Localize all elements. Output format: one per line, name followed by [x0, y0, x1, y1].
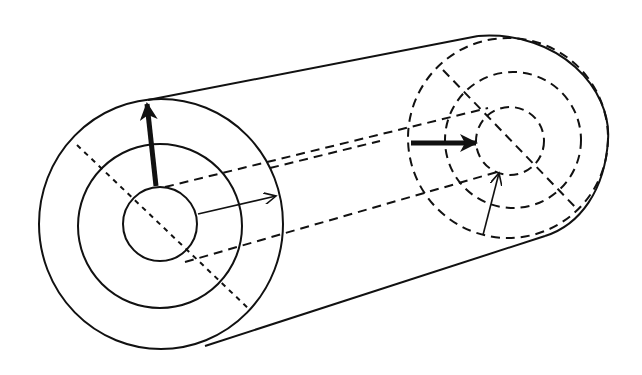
cylinder-bottom-edge — [205, 236, 545, 346]
thin-arrow-back — [483, 173, 499, 235]
back-inner-circle — [476, 107, 544, 175]
front-outer-circle — [39, 99, 283, 349]
axis-line-upper-ext — [270, 141, 380, 168]
axis-line-upper — [165, 108, 488, 187]
back-diagonal — [443, 70, 578, 210]
cylinder-diagram — [0, 0, 642, 375]
cylinder-top-edge — [148, 36, 478, 100]
